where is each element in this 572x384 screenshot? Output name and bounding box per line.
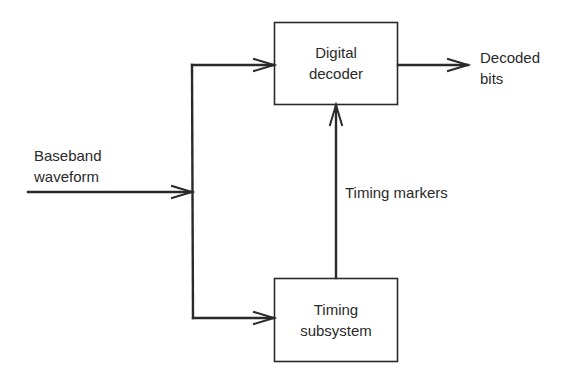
- timing-markers-label: Timing markers: [345, 182, 448, 203]
- digital-decoder-label-line-1: Digital: [274, 42, 398, 63]
- timing-subsystem-label-line-2: subsystem: [274, 320, 398, 341]
- timing-subsystem-label: Timing subsystem: [274, 299, 398, 341]
- digital-decoder-label: Digital decoder: [274, 42, 398, 84]
- block-diagram: Digital decoder Timing subsystem Baseban…: [0, 0, 572, 384]
- branch-bus-line: [192, 65, 193, 318]
- input-signal-label: Baseband waveform: [34, 145, 102, 187]
- output-signal-label-line-2: bits: [480, 68, 540, 89]
- output-signal-label-line-1: Decoded: [480, 47, 540, 68]
- digital-decoder-label-line-2: decoder: [274, 63, 398, 84]
- output-signal-label: Decoded bits: [480, 47, 540, 89]
- input-signal-label-line-1: Baseband: [34, 145, 102, 166]
- timing-subsystem-label-line-1: Timing: [274, 299, 398, 320]
- input-signal-label-line-2: waveform: [34, 166, 102, 187]
